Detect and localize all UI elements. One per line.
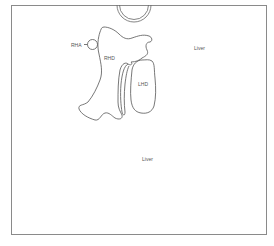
rhd-label: RHD [104,55,115,61]
rha-label: RHA [71,42,82,48]
liver-duct-diagram: RHA RHD LHD Liver Liver [0,0,274,246]
lhd-label: LHD [138,81,148,87]
liver-label-center: Liver [142,156,153,162]
liver-label-upper-right: Liver [194,45,205,51]
diagram-frame [12,6,267,235]
